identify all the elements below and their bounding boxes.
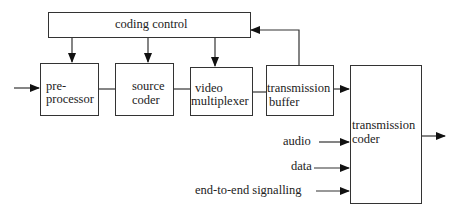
- transmission-buffer-label-1: transmission: [267, 82, 330, 95]
- buffer-feedback-arrow: [251, 30, 299, 65]
- transmission-coder-label-1: transmission: [352, 119, 415, 132]
- transmission-buffer-label-2: buffer: [269, 96, 299, 109]
- data-label: data: [291, 160, 312, 173]
- source-coder-label-2: coder: [132, 94, 160, 107]
- audio-label: audio: [283, 135, 311, 148]
- coding-control-label: coding control: [115, 18, 188, 31]
- transmission-coder-label-2: coder: [352, 133, 380, 146]
- video-multiplexer-label-2: multiplexer: [191, 95, 249, 108]
- preprocessor-label-2: processor: [46, 93, 94, 106]
- source-coder-label-1: source: [132, 80, 165, 93]
- signalling-label: end-to-end signalling: [195, 184, 302, 197]
